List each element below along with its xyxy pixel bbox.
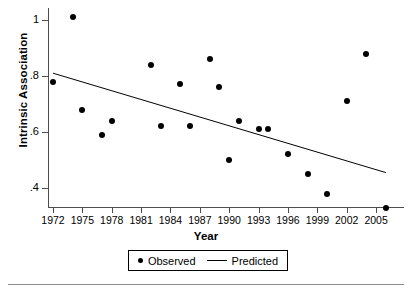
data-point xyxy=(79,107,85,113)
x-tick-mark xyxy=(229,208,230,213)
x-tick-label: 2002 xyxy=(332,215,362,226)
data-point xyxy=(50,79,56,85)
x-tick-mark xyxy=(347,208,348,213)
y-tick-label: .4 xyxy=(14,182,39,193)
data-point xyxy=(158,123,164,129)
x-tick-label: 1990 xyxy=(214,215,244,226)
data-point xyxy=(70,14,76,20)
data-point xyxy=(363,51,369,57)
x-tick-mark xyxy=(82,208,83,213)
data-point xyxy=(216,84,222,90)
x-tick-label: 1975 xyxy=(67,215,97,226)
line-segment-icon xyxy=(207,260,227,261)
data-point xyxy=(344,98,350,104)
x-tick-mark xyxy=(259,208,260,213)
x-tick-mark xyxy=(170,208,171,213)
y-tick-mark xyxy=(42,20,48,21)
data-point xyxy=(324,191,330,197)
x-tick-mark xyxy=(53,208,54,213)
x-tick-label: 1993 xyxy=(244,215,274,226)
x-tick-label: 1981 xyxy=(126,215,156,226)
x-tick-label: 1987 xyxy=(185,215,215,226)
x-tick-label: 1984 xyxy=(155,215,185,226)
x-tick-mark xyxy=(200,208,201,213)
x-tick-mark xyxy=(288,208,289,213)
data-point xyxy=(305,171,311,177)
data-point xyxy=(187,123,193,129)
data-point xyxy=(383,205,389,211)
x-tick-mark xyxy=(376,208,377,213)
y-tick-mark xyxy=(42,132,48,133)
legend-entry-predicted: Predicted xyxy=(207,255,278,267)
data-point xyxy=(256,126,262,132)
data-point xyxy=(148,62,154,68)
data-point xyxy=(207,56,213,62)
x-tick-mark xyxy=(317,208,318,213)
x-tick-label: 1978 xyxy=(97,215,127,226)
data-point xyxy=(177,81,183,87)
data-point xyxy=(265,126,271,132)
x-axis-title: Year xyxy=(0,230,412,242)
x-tick-label: 1972 xyxy=(38,215,68,226)
y-axis-title: Intrinsic Association xyxy=(17,20,29,160)
legend-entry-observed: Observed xyxy=(138,255,196,267)
footer-divider xyxy=(8,284,404,285)
filled-circle-icon xyxy=(138,258,143,263)
x-tick-label: 1999 xyxy=(302,215,332,226)
chart-figure: 1.8.6.4 19721975197819811984198719901993… xyxy=(0,0,412,297)
x-axis-line xyxy=(48,207,404,208)
x-tick-mark xyxy=(141,208,142,213)
y-axis-line xyxy=(48,8,49,208)
data-point xyxy=(99,132,105,138)
chart-legend: Observed Predicted xyxy=(128,250,288,271)
data-point xyxy=(226,157,232,163)
y-tick-mark xyxy=(42,76,48,77)
data-point xyxy=(109,118,115,124)
y-tick-mark xyxy=(42,188,48,189)
legend-label-predicted: Predicted xyxy=(232,255,278,267)
data-point xyxy=(285,151,291,157)
data-point xyxy=(236,118,242,124)
x-tick-mark xyxy=(112,208,113,213)
x-tick-label: 2005 xyxy=(361,215,391,226)
legend-label-observed: Observed xyxy=(148,255,196,267)
x-tick-label: 1996 xyxy=(273,215,303,226)
